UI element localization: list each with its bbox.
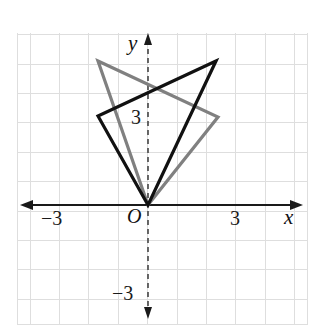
coordinate-plane-figure: y x O 3 −3 3 −3 (0, 0, 321, 333)
black-triangle (98, 61, 216, 205)
x-axis-arrow-left-icon (20, 200, 33, 210)
x-axis-label: x (284, 207, 293, 228)
x-tick-label-3: 3 (230, 208, 240, 228)
y-tick-label-minus-3: −3 (112, 283, 133, 303)
x-axis (20, 200, 303, 210)
origin-label: O (127, 206, 141, 226)
x-tick-label-minus-3: −3 (41, 208, 62, 228)
plot-svg (0, 0, 321, 333)
y-tick-label-3: 3 (131, 107, 141, 127)
y-axis-label: y (128, 33, 137, 54)
y-axis-arrow-down-icon (144, 307, 152, 319)
